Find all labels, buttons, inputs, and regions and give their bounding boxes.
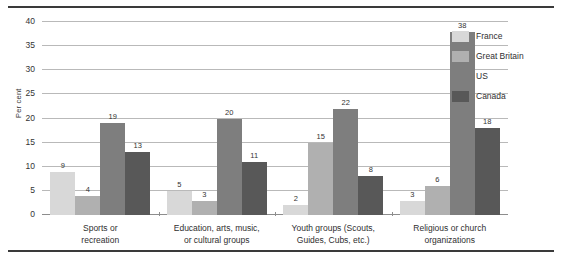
bar-column[interactable]: 3: [400, 22, 425, 215]
bottom-rule: [8, 250, 554, 252]
bar-column[interactable]: 20: [217, 22, 242, 215]
bar-value-label: 15: [308, 132, 333, 141]
bar-group-bars: 532011: [159, 22, 276, 215]
bar-column[interactable]: 5: [167, 22, 192, 215]
y-axis-tick-label: 15: [26, 137, 35, 147]
legend-swatch: [452, 51, 469, 62]
bar[interactable]: [217, 119, 242, 216]
bar-value-label: 6: [425, 175, 450, 184]
y-axis-tick-label: 25: [26, 88, 35, 98]
bar-group: 532011Education, arts, music,or cultural…: [159, 22, 276, 215]
bar-value-label: 20: [217, 108, 242, 117]
bar[interactable]: [358, 176, 383, 215]
chart-figure: Per cent 0510152025303540941913Sports or…: [0, 0, 562, 264]
bar-value-label: 9: [50, 161, 75, 170]
bar-group: 941913Sports orrecreation: [42, 22, 159, 215]
bar-value-label: 13: [125, 141, 150, 150]
y-axis-tick-label: 30: [26, 64, 35, 74]
y-axis-tick-label: 5: [30, 185, 35, 195]
bar[interactable]: [475, 128, 500, 215]
legend-item[interactable]: Canada: [452, 88, 556, 104]
bar-column[interactable]: 11: [242, 22, 267, 215]
bar-value-label: 18: [475, 117, 500, 126]
plot-area: 0510152025303540941913Sports orrecreatio…: [42, 22, 508, 215]
x-axis-category-label: Religious or churchorganizations: [378, 223, 523, 246]
bar[interactable]: [100, 123, 125, 215]
bar-column[interactable]: 6: [425, 22, 450, 215]
legend-swatch: [452, 31, 469, 42]
y-axis-tick-label: 35: [26, 40, 35, 50]
legend-item[interactable]: US: [452, 68, 556, 84]
legend-item[interactable]: Great Britain: [452, 48, 556, 64]
legend-swatch: [452, 71, 469, 82]
bar[interactable]: [400, 201, 425, 215]
bar[interactable]: [425, 186, 450, 215]
bar-value-label: 3: [192, 190, 217, 199]
bar-value-label: 3: [400, 190, 425, 199]
bar-value-label: 11: [242, 151, 267, 160]
legend-swatch: [452, 91, 469, 102]
y-axis-tick-label: 10: [26, 161, 35, 171]
bar-column[interactable]: 8: [358, 22, 383, 215]
bar-value-label: 19: [100, 112, 125, 121]
top-rule: [8, 6, 554, 8]
bar[interactable]: [167, 191, 192, 215]
bar-group-bars: 215228: [275, 22, 392, 215]
bar[interactable]: [308, 143, 333, 215]
bar[interactable]: [192, 201, 217, 215]
chart-legend: FranceGreat BritainUSCanada: [452, 28, 556, 108]
bar-value-label: 4: [75, 185, 100, 194]
bar-column[interactable]: 4: [75, 22, 100, 215]
bar[interactable]: [283, 205, 308, 215]
bar-value-label: 2: [283, 194, 308, 203]
bar[interactable]: [50, 172, 75, 215]
bar-value-label: 5: [167, 180, 192, 189]
bar-column[interactable]: 22: [333, 22, 358, 215]
bar-column[interactable]: 19: [100, 22, 125, 215]
legend-label: Canada: [476, 91, 506, 101]
bar-value-label: 22: [333, 98, 358, 107]
legend-label: US: [476, 71, 488, 81]
bar-column[interactable]: 3: [192, 22, 217, 215]
y-axis-tick-label: 40: [26, 16, 35, 26]
bar-column[interactable]: 13: [125, 22, 150, 215]
bar[interactable]: [242, 162, 267, 215]
legend-item[interactable]: France: [452, 28, 556, 44]
bar-group: 215228Youth groups (Scouts,Guides, Cubs,…: [275, 22, 392, 215]
bar-group-bars: 941913: [42, 22, 159, 215]
bar[interactable]: [125, 152, 150, 215]
y-axis-tick-label: 20: [26, 113, 35, 123]
bar[interactable]: [333, 109, 358, 215]
y-axis-label: Per cent: [14, 88, 23, 118]
bar-column[interactable]: 15: [308, 22, 333, 215]
legend-label: France: [476, 31, 502, 41]
legend-label: Great Britain: [476, 51, 524, 61]
bar[interactable]: [75, 196, 100, 215]
bar-column[interactable]: 9: [50, 22, 75, 215]
bar-value-label: 8: [358, 165, 383, 174]
bar-column[interactable]: 2: [283, 22, 308, 215]
y-axis-tick-label: 0: [30, 209, 35, 219]
